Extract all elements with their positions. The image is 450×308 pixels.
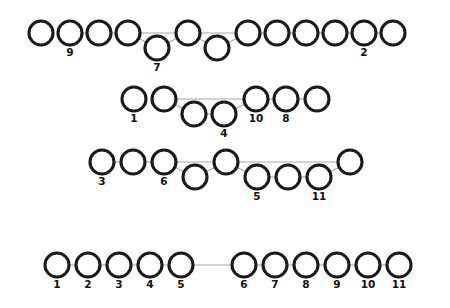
node-label-row4-7: 7 xyxy=(271,278,278,290)
node-circle-row3-6[interactable] xyxy=(245,165,269,189)
node-circle-row1-13[interactable] xyxy=(381,21,405,45)
node-chain-diagram: 97214108365111234567891011 xyxy=(0,0,450,308)
node-label-row4-8: 8 xyxy=(302,278,309,290)
node-circle-row1-4[interactable] xyxy=(116,21,140,45)
node-circle-row1-3[interactable] xyxy=(87,21,111,45)
node-label-row4-5: 5 xyxy=(177,278,184,290)
node-circle-row3-8[interactable] xyxy=(307,165,331,189)
node-circle-row1-1[interactable] xyxy=(29,21,53,45)
node-label-row1-5: 7 xyxy=(153,61,160,73)
node-circle-row1-8[interactable] xyxy=(236,21,260,45)
node-label-row4-2: 2 xyxy=(84,278,91,290)
node-circle-row2-6[interactable] xyxy=(274,87,298,111)
node-circle-row4-11[interactable] xyxy=(387,253,411,277)
node-circle-row1-11[interactable] xyxy=(323,21,347,45)
node-circle-row4-6[interactable] xyxy=(232,253,256,277)
node-circle-row3-7[interactable] xyxy=(276,165,300,189)
node-label-row2-4: 4 xyxy=(220,127,227,139)
node-circle-row1-5[interactable] xyxy=(145,36,169,60)
node-circle-row4-3[interactable] xyxy=(107,253,131,277)
node-circle-row3-3[interactable] xyxy=(152,150,176,174)
node-circle-row1-9[interactable] xyxy=(265,21,289,45)
node-label-row3-1: 3 xyxy=(98,175,105,187)
node-circle-row4-2[interactable] xyxy=(76,253,100,277)
node-circle-row2-7[interactable] xyxy=(305,87,329,111)
node-circle-row4-10[interactable] xyxy=(356,253,380,277)
node-circle-row1-10[interactable] xyxy=(294,21,318,45)
nodes-layer xyxy=(29,21,411,277)
node-label-row4-1: 1 xyxy=(53,278,60,290)
node-label-row4-4: 4 xyxy=(146,278,153,290)
node-label-row4-3: 3 xyxy=(115,278,122,290)
node-label-row3-8: 11 xyxy=(312,190,327,202)
node-circle-row2-5[interactable] xyxy=(244,87,268,111)
node-label-row2-5: 10 xyxy=(249,112,264,124)
node-circle-row4-5[interactable] xyxy=(169,253,193,277)
node-label-row1-2: 9 xyxy=(66,46,73,58)
node-circle-row4-7[interactable] xyxy=(263,253,287,277)
node-circle-row4-1[interactable] xyxy=(45,253,69,277)
node-label-row4-6: 6 xyxy=(240,278,247,290)
node-label-row4-11: 11 xyxy=(392,278,407,290)
node-label-row2-6: 8 xyxy=(282,112,289,124)
node-label-row3-3: 6 xyxy=(160,175,167,187)
node-circle-row1-7[interactable] xyxy=(205,36,229,60)
node-label-row3-6: 5 xyxy=(253,190,260,202)
node-circle-row2-2[interactable] xyxy=(152,87,176,111)
node-circle-row3-4[interactable] xyxy=(183,165,207,189)
node-circle-row1-12[interactable] xyxy=(352,21,376,45)
node-circle-row2-4[interactable] xyxy=(212,102,236,126)
node-circle-row4-8[interactable] xyxy=(294,253,318,277)
node-circle-row4-9[interactable] xyxy=(325,253,349,277)
node-circle-row1-6[interactable] xyxy=(176,21,200,45)
node-circle-row3-5[interactable] xyxy=(214,150,238,174)
node-circle-row3-1[interactable] xyxy=(90,150,114,174)
node-circle-row3-9[interactable] xyxy=(338,150,362,174)
node-circle-row3-2[interactable] xyxy=(121,150,145,174)
node-circle-row2-3[interactable] xyxy=(182,102,206,126)
node-label-row1-12: 2 xyxy=(360,46,367,58)
node-circle-row1-2[interactable] xyxy=(58,21,82,45)
node-label-row4-9: 9 xyxy=(333,278,340,290)
node-label-row4-10: 10 xyxy=(361,278,376,290)
node-circle-row4-4[interactable] xyxy=(138,253,162,277)
diagram-canvas: 97214108365111234567891011 xyxy=(0,0,450,308)
node-label-row2-1: 1 xyxy=(130,112,137,124)
node-circle-row2-1[interactable] xyxy=(122,87,146,111)
